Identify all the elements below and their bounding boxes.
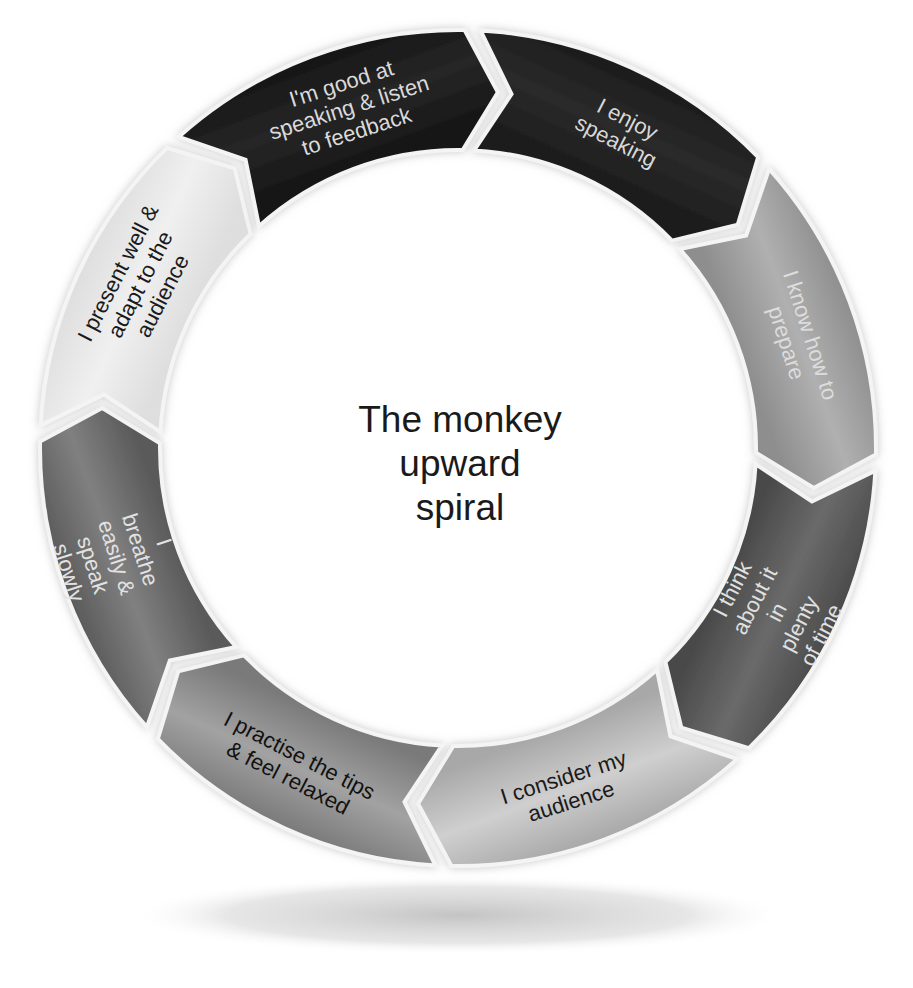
cycle-segment: I thinkabout itinplentyof time (665, 464, 875, 748)
cycle-segment: I practise the tips& feel relaxed (158, 655, 442, 865)
center-title: The monkey upward spiral (255, 398, 665, 530)
cycle-diagram: I enjoyspeakingI know how toprepareI thi… (0, 0, 913, 988)
center-title-line: upward (255, 442, 665, 486)
center-title-line: spiral (255, 486, 665, 530)
center-title-line: The monkey (255, 398, 665, 442)
cycle-segment: I present well &adapt to theaudience (41, 148, 251, 432)
cycle-segment: I enjoyspeaking (474, 31, 758, 241)
floor-shadow (128, 875, 788, 955)
